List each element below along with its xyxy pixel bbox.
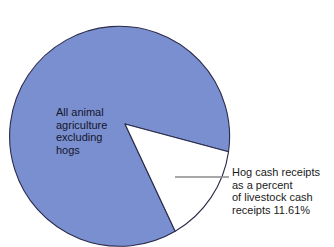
pie-label-minor-line-4: receipts 11.61% xyxy=(232,204,320,217)
pie-label-all-animal-agriculture-excluding-hogs: All animal agriculture excluding hogs xyxy=(56,106,107,156)
pie-label-hog-cash-receipts: Hog cash receipts as a percent of livest… xyxy=(232,166,320,216)
pie-label-major-line-1: All animal xyxy=(56,106,107,119)
pie-label-major-line-4: hogs xyxy=(56,144,107,157)
pie-label-minor-line-2: as a percent xyxy=(232,179,320,192)
pie-label-minor-line-3: of livestock cash xyxy=(232,191,320,204)
pie-chart-figure: All animal agriculture excluding hogs Ho… xyxy=(0,0,334,247)
pie-label-major-line-3: excluding xyxy=(56,131,107,144)
pie-label-minor-line-1: Hog cash receipts xyxy=(232,166,320,179)
pie-label-major-line-2: agriculture xyxy=(56,119,107,132)
